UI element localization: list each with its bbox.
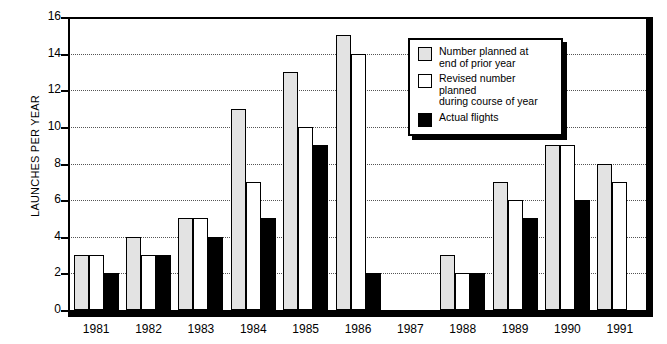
y-tick-label: 10 — [7, 119, 61, 133]
bar-revised-1989 — [508, 200, 523, 310]
bar-actual-1988 — [470, 273, 485, 310]
bar-group-1982 — [126, 17, 171, 310]
bar-revised-1985 — [298, 127, 313, 310]
plot-frame-right-edge — [646, 17, 653, 317]
legend-item-planned: Number planned at end of prior year — [418, 46, 553, 69]
x-tick-label-1982: 1982 — [122, 322, 174, 336]
y-tick-mark — [61, 200, 68, 202]
legend-label-planned: Number planned at end of prior year — [439, 46, 528, 69]
legend-item-revised: Revised number planned during course of … — [418, 73, 553, 108]
plot-frame-bottom-edge — [68, 310, 653, 317]
y-tick-label: 4 — [7, 229, 61, 243]
bar-planned-1982 — [126, 237, 141, 310]
bar-group-1984 — [231, 17, 276, 310]
bar-planned-1985 — [283, 72, 298, 310]
bar-revised-1990 — [560, 145, 575, 310]
bar-group-1981 — [74, 17, 119, 310]
legend-swatch-planned-icon — [418, 47, 432, 61]
bar-revised-1986 — [351, 54, 366, 310]
bar-group-1985 — [283, 17, 328, 310]
x-tick-label-1988: 1988 — [437, 322, 489, 336]
x-tick-label-1987: 1987 — [384, 322, 436, 336]
bar-planned-1981 — [74, 255, 89, 310]
chart-legend: Number planned at end of prior year Revi… — [408, 38, 563, 136]
y-tick-mark — [61, 237, 68, 239]
bar-actual-1990 — [575, 200, 590, 310]
y-tick-label: 8 — [7, 156, 61, 170]
bar-revised-1981 — [89, 255, 104, 310]
bar-actual-1984 — [261, 218, 276, 310]
x-tick-label-1991: 1991 — [594, 322, 646, 336]
bar-planned-1989 — [493, 182, 508, 310]
x-tick-label-1990: 1990 — [541, 322, 593, 336]
bar-revised-1988 — [455, 273, 470, 310]
bar-planned-1983 — [178, 218, 193, 310]
bar-group-1983 — [178, 17, 223, 310]
y-tick-mark — [61, 90, 68, 92]
bar-actual-1983 — [208, 237, 223, 310]
y-tick-mark — [61, 54, 68, 56]
bar-revised-1983 — [193, 218, 208, 310]
legend-item-actual: Actual flights — [418, 112, 553, 127]
bar-planned-1988 — [440, 255, 455, 310]
y-tick-label: 14 — [7, 46, 61, 60]
bar-chart: LAUNCHES PER YEAR 0246810121416 19811982… — [0, 0, 667, 344]
y-tick-label: 6 — [7, 192, 61, 206]
x-tick-label-1985: 1985 — [279, 322, 331, 336]
bar-revised-1982 — [141, 255, 156, 310]
y-tick-label: 2 — [7, 265, 61, 279]
bar-group-1991 — [597, 17, 642, 310]
y-tick-mark — [61, 127, 68, 129]
x-tick-label-1986: 1986 — [332, 322, 384, 336]
bar-planned-1991 — [597, 164, 612, 311]
bar-actual-1981 — [104, 273, 119, 310]
x-tick-label-1989: 1989 — [489, 322, 541, 336]
bar-revised-1991 — [612, 182, 627, 310]
bar-planned-1990 — [545, 145, 560, 310]
bar-group-1986 — [336, 17, 381, 310]
legend-label-revised: Revised number planned during course of … — [439, 73, 553, 108]
legend-label-actual: Actual flights — [439, 112, 499, 124]
y-tick-label: 16 — [7, 9, 61, 23]
bar-actual-1989 — [523, 218, 538, 310]
x-tick-label-1983: 1983 — [175, 322, 227, 336]
bar-actual-1986 — [366, 273, 381, 310]
y-tick-label: 12 — [7, 82, 61, 96]
y-tick-mark — [61, 164, 68, 166]
legend-swatch-revised-icon — [418, 74, 432, 88]
bar-revised-1984 — [246, 182, 261, 310]
bar-planned-1986 — [336, 35, 351, 310]
y-tick-mark — [61, 273, 68, 275]
y-tick-label: 0 — [7, 302, 61, 316]
x-tick-label-1981: 1981 — [70, 322, 122, 336]
legend-swatch-actual-icon — [418, 113, 432, 127]
y-tick-mark — [61, 310, 68, 312]
bar-planned-1984 — [231, 109, 246, 310]
y-tick-mark — [61, 17, 68, 19]
x-tick-label-1984: 1984 — [227, 322, 279, 336]
bar-actual-1985 — [313, 145, 328, 310]
bar-actual-1982 — [156, 255, 171, 310]
